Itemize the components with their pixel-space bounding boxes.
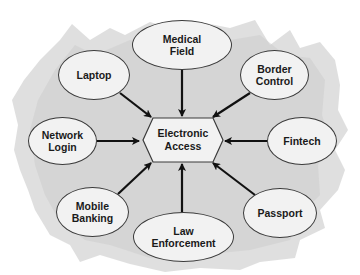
node-label-line2: Enforcement [151, 237, 215, 249]
node-label-line2: Control [256, 75, 293, 87]
node-label-line1: Medical [163, 33, 202, 45]
node-fintech: Fintech [267, 117, 337, 165]
node-label-line1: Passport [258, 207, 303, 219]
center-node-electronic-access: Electronic Access [143, 118, 223, 162]
node-label-line2: Banking [72, 212, 113, 224]
node-label-line1: Border [256, 63, 293, 75]
node-law-enforcement: Law Enforcement [133, 212, 234, 262]
node-label-line1: Law [151, 225, 215, 237]
center-label-line2: Access [165, 140, 202, 153]
node-medical-field: Medical Field [132, 20, 232, 70]
node-label-line2: Login [42, 141, 83, 153]
node-label-line2: Field [163, 45, 202, 57]
node-laptop: Laptop [58, 50, 130, 100]
node-network-login: Network Login [28, 117, 97, 165]
node-passport: Passport [243, 188, 317, 238]
node-border-control: Border Control [240, 50, 309, 100]
center-label-line1: Electronic [158, 127, 209, 140]
node-mobile-banking: Mobile Banking [56, 187, 129, 237]
node-label-line1: Fintech [283, 135, 320, 147]
node-label-line1: Laptop [77, 69, 112, 81]
node-label-line1: Network [42, 129, 83, 141]
node-label-line1: Mobile [72, 200, 113, 212]
